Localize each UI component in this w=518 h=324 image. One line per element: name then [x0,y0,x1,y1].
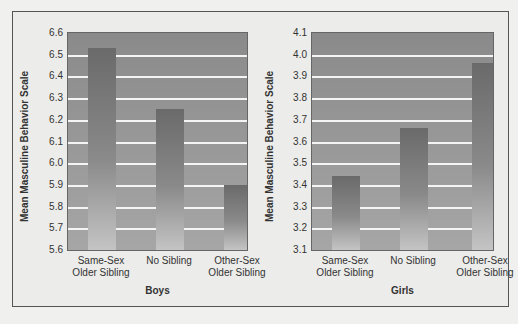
bar [88,48,116,250]
y-tick-label: 3.2 [283,223,307,233]
bar [156,109,184,250]
y-tick-label: 6.5 [39,50,63,60]
gridline [312,98,493,100]
bar [332,176,360,250]
y-tick-label: 3.7 [283,115,307,125]
y-tick-label: 3.3 [283,202,307,212]
gridline [312,120,493,122]
y-tick-label: 5.8 [39,202,63,212]
plot-area [311,32,494,251]
plot-area [67,32,248,251]
y-tick-label: 6.4 [39,71,63,81]
y-tick-label: 5.9 [39,180,63,190]
y-tick-label: 6.3 [39,93,63,103]
girls-panel: 3.13.23.33.43.53.63.73.83.94.04.1Mean Ma… [258,12,508,306]
bar [472,63,494,250]
y-tick-label: 6.2 [39,115,63,125]
y-tick-label: 3.9 [283,71,307,81]
bar [224,185,248,250]
y-tick-label: 5.7 [39,223,63,233]
y-axis-label: Mean Masculine Behavior Scale [19,71,30,222]
x-axis-group-label: Boys [128,285,188,296]
y-tick-label: 6.6 [39,28,63,38]
x-category-label: No Sibling [381,255,445,267]
gridline [312,55,493,57]
x-category-label: Same-SexOlder Sibling [313,255,377,279]
y-tick-label: 3.6 [283,137,307,147]
x-category-label: Same-SexOlder Sibling [69,255,133,279]
gridline [312,76,493,78]
y-tick-label: 3.5 [283,158,307,168]
figure-frame: 5.65.75.85.96.06.16.26.36.46.56.6Mean Ma… [12,11,509,307]
y-tick-label: 3.1 [283,245,307,255]
y-tick-label: 3.8 [283,93,307,103]
y-axis-label: Mean Masculine Behavior Scale [264,71,275,222]
x-category-label: Other-SexOlder Sibling [453,255,517,279]
boys-panel: 5.65.75.85.96.06.16.26.36.46.56.6Mean Ma… [13,12,253,306]
bar [400,128,428,250]
x-category-label: No Sibling [137,255,201,267]
y-tick-label: 6.0 [39,158,63,168]
y-tick-label: 3.4 [283,180,307,190]
y-tick-label: 5.6 [39,245,63,255]
y-tick-label: 4.1 [283,28,307,38]
y-tick-label: 6.1 [39,137,63,147]
y-tick-label: 4.0 [283,50,307,60]
x-axis-group-label: Girls [373,285,433,296]
